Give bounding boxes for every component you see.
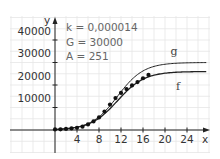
y-tick-label: 20000 (18, 70, 51, 82)
x-tick-label: 16 (136, 133, 150, 145)
x-tick-label: 4 (74, 133, 81, 145)
data-point (75, 126, 79, 130)
param-G: G = 30000 (66, 36, 123, 48)
data-point (69, 126, 73, 130)
data-point (58, 127, 62, 131)
data-point (91, 119, 95, 123)
data-point (80, 125, 84, 129)
data-point (141, 76, 145, 80)
data-point (64, 127, 68, 131)
data-point (102, 109, 106, 113)
param-k: k = 0,000014 (66, 21, 138, 33)
data-point (97, 115, 101, 119)
data-point (119, 91, 123, 95)
y-axis-arrow-icon (53, 17, 58, 24)
x-axis-label: x (202, 133, 208, 145)
x-tick-label: 12 (114, 133, 127, 145)
data-point (124, 87, 128, 91)
curve-g-label: g (170, 45, 177, 58)
curve-f-label: f (176, 80, 181, 93)
param-A: A = 251 (66, 50, 109, 62)
data-point (146, 73, 150, 77)
data-point (113, 96, 117, 100)
x-tick-label: 8 (96, 133, 103, 145)
y-axis-label: y (44, 14, 50, 26)
data-point (53, 127, 57, 131)
x-tick-label: 20 (158, 133, 171, 145)
data-point (130, 83, 134, 87)
y-tick-label: 30000 (18, 47, 51, 59)
logistic-growth-chart: 40000 30000 20000 10000 4 8 12 16 20 24 … (0, 0, 220, 159)
data-points (53, 73, 151, 132)
data-point (135, 80, 139, 84)
data-point (108, 102, 112, 106)
y-tick-label: 40000 (18, 25, 51, 37)
x-tick-label: 24 (180, 133, 194, 145)
data-point (86, 122, 90, 126)
y-tick-label: 10000 (18, 92, 51, 104)
